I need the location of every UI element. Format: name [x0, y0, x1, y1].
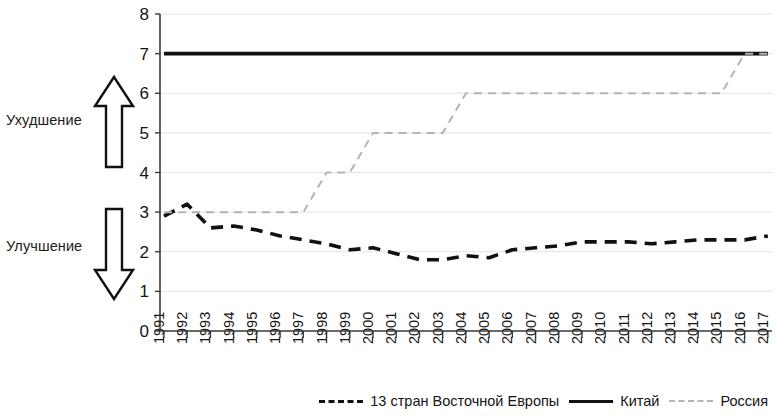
x-tick-label: 2005 — [476, 312, 492, 344]
x-tick-label: 2012 — [639, 312, 655, 344]
x-tick-label: 2002 — [406, 312, 422, 344]
x-tick-label: 2008 — [546, 312, 562, 344]
legend-item-1[interactable]: Китай — [569, 393, 659, 409]
x-tick-label: 2006 — [499, 312, 515, 344]
chart-container: Ухудшение Улучшение 012345678 1991199219… — [0, 0, 782, 416]
y-tick-label: 6 — [140, 84, 149, 103]
legend-swatch-solid-black — [569, 395, 613, 407]
x-tick-label: 1994 — [221, 312, 237, 344]
x-tick-label: 2004 — [453, 312, 469, 344]
y-tick-label: 8 — [140, 5, 149, 24]
y-tick-label: 7 — [140, 45, 149, 64]
x-tick-label: 1998 — [314, 312, 330, 344]
legend: 13 стран Восточной Европы Китай Россия — [0, 386, 782, 416]
x-tick-label: 2014 — [685, 312, 701, 344]
y-tick-label: 5 — [140, 124, 149, 143]
x-tick-label: 1997 — [290, 312, 306, 344]
legend-label-1: Китай — [620, 393, 659, 409]
y-tick-label: 2 — [140, 243, 149, 262]
gridlines — [160, 14, 772, 291]
y-tick-label: 4 — [140, 164, 149, 183]
legend-label-2: Россия — [720, 393, 768, 409]
legend-label-0: 13 стран Восточной Европы — [370, 393, 559, 409]
x-tick-label: 1992 — [174, 312, 190, 344]
x-tick-label: 2017 — [755, 312, 771, 344]
legend-swatch-dashed-gray — [669, 395, 713, 407]
x-tick-label: 2010 — [592, 312, 608, 344]
data-series-layer — [164, 54, 768, 260]
legend-swatch-dashed-black — [319, 395, 363, 407]
x-tick-label: 2015 — [708, 312, 724, 344]
x-tick-label: 2009 — [569, 312, 585, 344]
x-tick-label: 2000 — [360, 312, 376, 344]
y-tick-label: 0 — [140, 322, 149, 341]
y-tick-labels: 012345678 — [140, 5, 149, 341]
x-tick-label: 2016 — [732, 312, 748, 344]
plot-area: 012345678 199119921993199419951996199719… — [0, 0, 782, 386]
legend-item-2[interactable]: Россия — [669, 393, 768, 409]
x-tick-labels: 1991199219931994199519961997199819992000… — [151, 312, 771, 344]
y-tick-label: 1 — [140, 282, 149, 301]
x-tick-label: 1995 — [244, 312, 260, 344]
x-tick-label: 2001 — [383, 312, 399, 344]
legend-item-0[interactable]: 13 стран Восточной Европы — [319, 393, 559, 409]
x-tick-label: 2011 — [616, 313, 632, 344]
x-tick-label: 1993 — [197, 312, 213, 344]
y-tick-label: 3 — [140, 203, 149, 222]
x-tick-label: 1991 — [151, 312, 167, 344]
x-tick-label: 1999 — [337, 312, 353, 344]
x-tick-label: 1996 — [267, 312, 283, 344]
x-tick-label: 2007 — [523, 312, 539, 344]
x-tick-label: 2013 — [662, 312, 678, 344]
x-tick-label: 2003 — [430, 312, 446, 344]
